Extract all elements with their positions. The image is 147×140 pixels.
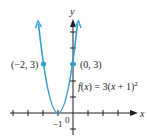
- origin-label: 0: [65, 115, 70, 125]
- point-left-marker: [41, 61, 46, 66]
- x-axis-label: x: [139, 108, 145, 119]
- x-tick-label-minus-one: −1: [53, 119, 63, 129]
- point-right-label: (0, 3): [80, 59, 102, 71]
- graph: y x 0 −1 (−2, 3) (0, 3) f(x) = 3(x + 1)2: [0, 0, 147, 140]
- x-axis: [10, 110, 138, 116]
- point-left-label: (−2, 3): [11, 59, 38, 71]
- point-right-marker: [70, 61, 75, 66]
- parabola-curve: [39, 24, 78, 113]
- function-label: f(x) = 3(x + 1)2: [78, 80, 138, 93]
- x-axis-arrow-icon: [130, 110, 138, 116]
- y-axis-label: y: [69, 6, 75, 17]
